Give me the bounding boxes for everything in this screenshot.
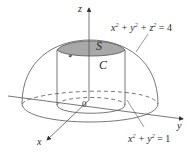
- sphere-equation: x2 + y2 + z2 = 4: [110, 22, 172, 33]
- cylinder-equation: x2 + y2 = 1: [127, 133, 170, 144]
- y-axis-label: y: [176, 120, 182, 131]
- hemisphere-base-back: [22, 91, 158, 104]
- origin-label: 0: [82, 99, 87, 109]
- x-axis-label: x: [36, 136, 42, 147]
- curve-c-label: C: [99, 58, 108, 72]
- sphere-leader-line: [136, 34, 148, 52]
- cylinder-base-front: [57, 105, 125, 113]
- surface-s-label: S: [96, 39, 102, 53]
- z-axis-label: z: [77, 3, 82, 14]
- hemisphere-diagram: z x y 0 S C x2 + y2 + z2 = 4 x2 + y2 = 1: [0, 0, 187, 156]
